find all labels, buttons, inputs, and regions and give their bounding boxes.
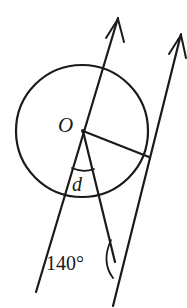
label-angle-140: 140° — [46, 252, 84, 274]
geometry-canvas: O d 140° — [0, 0, 187, 308]
label-angle-d: d — [72, 173, 83, 195]
label-center-o: O — [58, 113, 73, 137]
center-point-dot — [81, 129, 85, 133]
transversal-line-left — [36, 18, 118, 292]
transversal-line-right — [113, 34, 181, 306]
angle-arc-d — [72, 168, 94, 171]
geometry-figure: O d 140° — [0, 0, 187, 308]
radius-to-tangent-point — [83, 131, 149, 157]
